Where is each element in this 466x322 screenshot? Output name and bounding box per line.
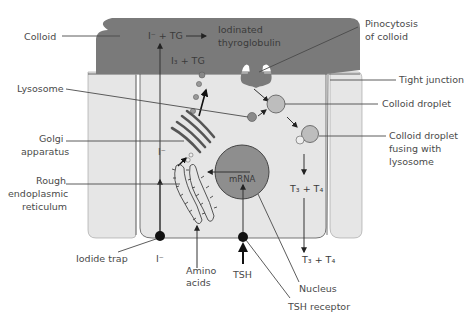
amino-acids-label-line2: acids [186, 277, 211, 288]
rer-label-line1: Rough [36, 175, 66, 186]
droplet-fusing-label-line3: lysosome [389, 156, 434, 167]
iodide-trap-dot [155, 231, 165, 241]
tsh-receptor-label: TSH receptor [287, 301, 350, 312]
nucleus-label: Nucleus [299, 283, 337, 294]
golgi-label-line1: Golgi [39, 133, 63, 144]
right-cell [330, 72, 362, 238]
iodinated-tg-line1: Iodinated [218, 24, 263, 35]
t3-t4-outside-text: T₃ + T₄ [301, 254, 335, 265]
rer-label-line3: reticulum [22, 201, 67, 212]
tight-junction-label: Tight junction [398, 74, 464, 85]
amino-acids-label-line1: Amino [186, 265, 216, 276]
cell-boundary-right [327, 75, 328, 235]
mrna-text: mRNA [229, 174, 256, 184]
iodide-trap-label: Iodide trap [76, 253, 128, 264]
thyroid-follicle-diagram: I⁻ + TG Iodinated thyroglobulin I₃ + TG … [0, 0, 466, 322]
pinocytosis-label-line2: of colloid [365, 31, 408, 42]
colloid-label: Colloid [24, 31, 56, 42]
colloid-droplet-label: Colloid droplet [382, 98, 451, 109]
fusing-lysosome [296, 136, 304, 144]
iodinated-tg-line2: thyroglobulin [218, 37, 281, 48]
iodide-bottom-text: I⁻ [156, 253, 164, 264]
left-cell [88, 72, 136, 238]
iodide-mid-text: I⁻ [158, 146, 166, 157]
rer-label-line2: endoplasmic [8, 188, 68, 199]
golgi-label-line2: apparatus [21, 146, 69, 157]
t3-t4-inside-text: T₃ + T₄ [289, 183, 323, 194]
iodide-plus-tg-text: I⁻ + TG [148, 30, 183, 41]
i3-plus-tg-text: I₃ + TG [171, 55, 205, 66]
droplet-fusing-label-line2: fusing with [389, 143, 441, 154]
lysosome [248, 113, 257, 122]
tsh-text: TSH [232, 269, 252, 280]
droplet-fusing-label-line1: Colloid droplet [389, 130, 458, 141]
iodide-trap-leader [118, 239, 156, 252]
pinocytosis-label-line1: Pinocytosis [365, 18, 418, 29]
colloid-droplet [267, 95, 285, 113]
lysosome-label: Lysosome [17, 83, 64, 94]
